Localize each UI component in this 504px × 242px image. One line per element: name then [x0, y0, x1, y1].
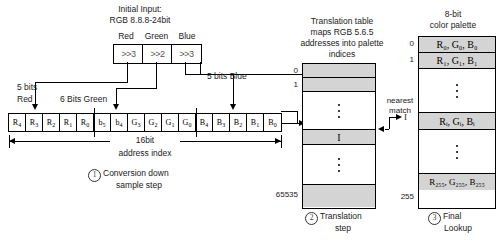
palette-row-match: Rᵢ, Gᵢ, Bᵢ [419, 113, 495, 130]
bit-cell-R4: R4 [9, 114, 26, 131]
bit-cell-subscript: 5 [103, 122, 106, 128]
diagram-title-line1: Initial Input: [62, 5, 218, 15]
palette-row-255: R₂₅₅, G₂₅₅, B₂₅₅ [419, 174, 495, 190]
palette-entry-255: R₂₅₅, G₂₅₅, B₂₅₅ [429, 177, 485, 187]
width-label-address-index: address index [95, 149, 195, 159]
translation-caption-line1: Translation table [282, 17, 402, 27]
bit-cell-G0: G0 [179, 114, 196, 131]
bit-label-red-line1: 5 bits [17, 83, 37, 93]
bit-cell-subscript: 0 [188, 122, 191, 128]
address-index-bit-row: R4R3R2R1R0b5b4G3G2G1G0B4B3B2B1B0 [8, 113, 282, 132]
palette-row-1: R₁, G₁, B₁ [419, 53, 495, 69]
bit-cell-B3: B3 [213, 114, 230, 131]
step1-label-line2: sample step [103, 181, 175, 191]
ellipsis-dots [419, 84, 495, 98]
bit-label-blue: 5 bits Blue [207, 72, 247, 82]
translation-rows-ellipsis-upper [303, 92, 375, 130]
translation-match-value: I [337, 132, 340, 143]
wire-green-h1 [116, 88, 157, 89]
wire-green-v2 [116, 88, 117, 105]
palette-entry-0: R₀, G₀, B₀ [436, 39, 477, 50]
shift-box-blue: >>3 [171, 44, 202, 64]
step1-label-line1: Conversion down [103, 169, 169, 179]
wire-red-v1 [127, 62, 128, 82]
channel-label-green: Green [140, 32, 173, 42]
wire-index-h3 [281, 111, 297, 112]
translation-index-65535: 65535 [268, 190, 298, 199]
translation-caption-line3: addresses into palette [277, 39, 407, 49]
wire-index-v2 [297, 111, 298, 123]
width-arrow-right [275, 138, 281, 144]
bit-cell-R2: R2 [43, 114, 60, 131]
bit-label-green: 6 Bits Green [60, 95, 107, 105]
rgb-palette-conversion-diagram: Initial Input: RGB 8.8.8-24bit Red Green… [0, 0, 504, 242]
bit-cell-subscript: 4 [18, 122, 21, 128]
translation-index-0: 0 [278, 66, 298, 75]
palette-index-255: 255 [392, 192, 414, 201]
ellipsis-dots [419, 145, 495, 159]
translation-row-match: I [303, 130, 375, 145]
palette-index-1: 1 [396, 55, 414, 64]
bit-cell-R1: R1 [60, 114, 77, 131]
bit-cell-subscript: 2 [52, 122, 55, 128]
bit-cell-b4: b4 [111, 114, 128, 131]
translation-caption-line4: indices [282, 50, 402, 60]
step1-number: 1 [88, 169, 101, 182]
color-palette-table: R₀, G₀, B₀ R₁, G₁, B₁ Rᵢ, Gᵢ, Bᵢ R₂₅₅, G… [418, 36, 496, 209]
bit-group-separator-green-blue [196, 108, 197, 137]
bit-group-separator-red-green [94, 108, 95, 137]
step2-label-line1: Translation [320, 212, 362, 222]
palette-caption-line2: color palette [408, 21, 498, 31]
shift-box-red: >>3 [113, 44, 144, 64]
nearest-match-arrowhead [396, 114, 402, 120]
wire-match-arrowhead [378, 126, 384, 132]
translation-table: I [302, 63, 376, 209]
translation-rows-ellipsis-lower [303, 145, 375, 185]
bit-cell-G2: G2 [145, 114, 162, 131]
bit-cell-subscript: 1 [69, 122, 72, 128]
nearest-match-value: I [404, 112, 407, 122]
ellipsis-dots [303, 158, 375, 172]
translation-row-65535 [303, 185, 375, 207]
channel-label-blue: Blue [173, 32, 201, 42]
wire-blue-v1 [185, 62, 186, 74]
palette-index-0: 0 [396, 39, 414, 48]
bit-cell-subscript: 0 [274, 122, 277, 128]
translation-index-1: 1 [278, 80, 298, 89]
palette-rows-ellipsis-upper [419, 69, 495, 113]
bit-cell-B1: B1 [247, 114, 264, 131]
ellipsis-dots [303, 104, 375, 118]
bit-cell-G3: G3 [128, 114, 145, 131]
wire-green-v1 [156, 62, 157, 88]
wire-red-h1 [35, 82, 128, 83]
bit-cell-B4: B4 [196, 114, 213, 131]
bit-cell-subscript: 3 [35, 122, 38, 128]
bit-cell-subscript: 2 [239, 122, 242, 128]
bit-cell-subscript: 3 [137, 122, 140, 128]
bit-cell-subscript: 2 [154, 122, 157, 128]
bit-cell-subscript: 3 [222, 122, 225, 128]
width-label-16bit: 16bit [110, 136, 180, 146]
width-tick-right [281, 135, 282, 148]
nearest-match-bracket-v [389, 117, 390, 124]
bit-cell-G1: G1 [162, 114, 179, 131]
palette-row-0: R₀, G₀, B₀ [419, 37, 495, 53]
wire-match-h [385, 129, 389, 130]
bit-cell-R3: R3 [26, 114, 43, 131]
palette-rows-ellipsis-lower [419, 130, 495, 174]
step3-label-line1: Final [443, 212, 461, 222]
wire-match-v [389, 124, 390, 129]
bit-cell-B0: B0 [264, 114, 281, 131]
bit-cell-subscript: 4 [120, 122, 123, 128]
bit-cell-B2: B2 [230, 114, 247, 131]
channel-label-red: Red [112, 32, 140, 42]
bit-cell-subscript: 1 [171, 122, 174, 128]
bit-label-red-line2: Red [17, 95, 33, 105]
bit-cell-subscript: 0 [86, 122, 89, 128]
nearest-match-line1: nearest [377, 96, 423, 105]
translation-caption-line2: maps RGB 5.6.5 [282, 28, 402, 38]
palette-caption-line1: 8-bit [408, 10, 498, 20]
shift-box-green: >>2 [142, 44, 173, 64]
wire-red-arrowhead [32, 104, 38, 110]
wire-blue-arrowhead [230, 104, 236, 110]
